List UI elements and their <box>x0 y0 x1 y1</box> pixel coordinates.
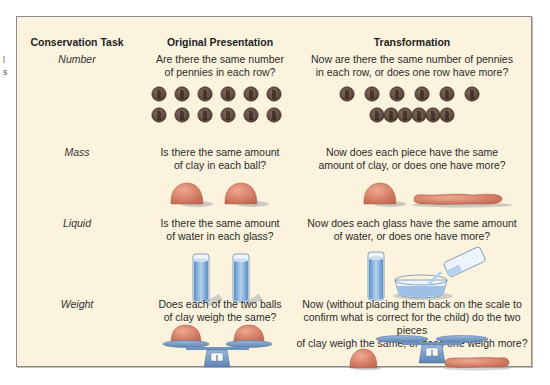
caption-fragment: l <box>3 55 5 65</box>
original-question-liquid: Is there the same amount of water in eac… <box>135 217 305 243</box>
scale-with-two-balls-icon <box>161 324 273 368</box>
header-original-presentation: Original Presentation <box>135 36 305 48</box>
task-liquid: Liquid <box>17 217 137 229</box>
transform-question-number: Now are there the same number of pennies… <box>297 53 527 79</box>
question-line: in each row, or does one row have more? <box>297 66 527 79</box>
caption-fragment: s <box>3 67 7 77</box>
transform-question-liquid: Now does each glass have the same amount… <box>297 217 527 243</box>
header-conservation-task: Conservation Task <box>19 36 135 48</box>
task-mass: Mass <box>17 146 137 158</box>
scale-with-ball-and-sausage-beside-icon <box>347 335 512 371</box>
question-line: Are there the same number <box>135 53 305 66</box>
question-line: of clay in each ball? <box>135 159 305 172</box>
question-line: of water, or does one have more? <box>297 230 527 243</box>
question-line: Now (without placing them back on the sc… <box>291 298 533 311</box>
question-line: Now are there the same number of pennies <box>297 53 527 66</box>
pennies-transformed-icon <box>337 84 487 126</box>
question-line: of water in each glass? <box>135 230 305 243</box>
question-line: Does each of the two balls <box>135 298 305 311</box>
question-line: Now does each piece have the same <box>297 146 527 159</box>
pennies-original-icon <box>147 84 297 126</box>
original-question-mass: Is there the same amount of clay in each… <box>135 146 305 172</box>
question-line: Is there the same amount <box>135 146 305 159</box>
question-line: Now does each glass have the same amount <box>297 217 527 230</box>
question-line: of clay weigh the same? <box>135 311 305 324</box>
transform-question-mass: Now does each piece have the same amount… <box>297 146 527 172</box>
task-weight: Weight <box>17 298 137 310</box>
task-number: Number <box>17 53 137 65</box>
question-line: of pennies in each row? <box>135 66 305 79</box>
clay-balls-original-icon <box>167 179 277 209</box>
header-transformation: Transformation <box>297 36 527 48</box>
original-question-weight: Does each of the two balls of clay weigh… <box>135 298 305 324</box>
question-line: confirm what is correct for the child) d… <box>291 311 533 337</box>
glass-pouring-into-bowl-icon <box>365 246 490 306</box>
question-line: Is there the same amount <box>135 217 305 230</box>
question-line: amount of clay, or does one have more? <box>297 159 527 172</box>
conservation-tasks-table: Conservation Task Original Presentation … <box>16 16 532 367</box>
original-question-number: Are there the same number of pennies in … <box>135 53 305 79</box>
clay-ball-and-sausage-icon <box>362 179 512 209</box>
